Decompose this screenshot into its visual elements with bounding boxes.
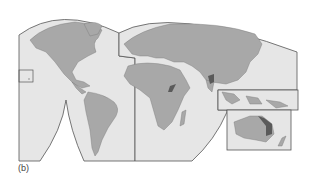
figure-caption: (b) [18,163,29,173]
world-map [0,0,316,180]
hawaii-island [28,78,30,80]
